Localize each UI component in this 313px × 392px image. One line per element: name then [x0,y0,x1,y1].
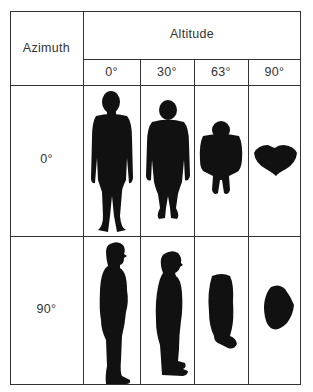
divider-row-0-90 [10,236,301,237]
foreshortened-front-figure-63-icon [197,120,245,196]
side-figure-30-icon [152,249,192,379]
divider-col-30-63 [194,59,195,385]
row-label-90: 90° [10,302,83,316]
column-header-63: 63° [194,65,248,79]
divider-altitude-subheader [83,59,301,60]
front-figure-30-icon [143,98,193,224]
divider-col-0-30 [140,59,141,385]
row-label-0: 0° [10,152,83,166]
front-figure-0-icon [86,88,138,234]
divider-header-bottom [10,85,301,86]
altitude-header: Altitude [83,27,301,41]
foreshortened-side-figure-63-icon [204,272,240,352]
side-figure-0-icon [96,240,136,385]
column-header-0: 0° [83,65,140,79]
column-header-90: 90° [248,65,301,79]
top-view-90-icon [261,283,295,333]
column-header-30: 30° [140,65,194,79]
azimuth-header: Azimuth [10,41,83,55]
top-view-0-icon [252,143,298,179]
divider-col-63-90 [248,59,249,385]
